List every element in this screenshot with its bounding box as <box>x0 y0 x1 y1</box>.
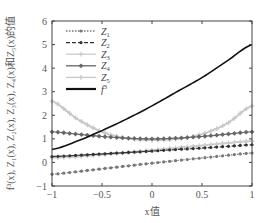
marker-dot <box>162 160 165 163</box>
marker-dot <box>145 162 148 165</box>
marker-dot <box>68 154 71 157</box>
marker-dot <box>68 171 71 174</box>
x-tick-label: 1 <box>250 189 255 200</box>
marker-dot <box>103 152 106 155</box>
marker-dot <box>227 154 230 157</box>
legend-label: Z3 <box>101 49 110 61</box>
marker-dot <box>145 150 148 153</box>
x-axis-label: x值 <box>145 205 160 217</box>
marker-plus <box>79 75 84 80</box>
marker-diamond <box>103 134 108 139</box>
legend-item-z2: Z2 <box>66 37 110 49</box>
marker-dot <box>121 165 124 168</box>
marker-dot <box>209 155 212 158</box>
marker-plus <box>244 139 249 144</box>
marker-dot <box>197 147 200 150</box>
marker-dot <box>92 153 95 156</box>
marker-dot <box>233 144 236 147</box>
line-chart: −1−0.500.51−10123456 Z1Z2Z3Z4Z5f3 x值 f³(… <box>0 0 269 223</box>
marker-dot <box>92 168 95 171</box>
x-tick-label: −0.5 <box>93 189 111 200</box>
marker-dot <box>215 155 218 158</box>
marker-dot <box>197 157 200 160</box>
legend-label: f3 <box>101 83 107 95</box>
marker-diamond <box>179 136 184 141</box>
marker-dot <box>180 158 183 161</box>
marker-dot <box>121 151 124 154</box>
marker-dot <box>133 164 136 167</box>
y-tick-label: 6 <box>42 16 47 27</box>
marker-dot <box>162 149 165 152</box>
marker-dot <box>186 147 189 150</box>
marker-dot <box>180 148 183 151</box>
marker-dot <box>62 172 65 175</box>
marker-dot <box>133 151 136 154</box>
marker-dot <box>97 168 100 171</box>
marker-diamond <box>79 132 84 137</box>
marker-dot <box>209 146 212 149</box>
marker-dot <box>56 172 59 175</box>
marker-dot <box>56 155 59 158</box>
marker-diamond <box>67 131 72 136</box>
marker-dot <box>139 150 142 153</box>
y-tick-label: 0 <box>42 157 47 168</box>
marker-diamond <box>226 132 231 137</box>
marker-dot <box>192 147 195 150</box>
legend: Z1Z2Z3Z4Z5f3 <box>66 26 111 95</box>
y-tick-label: 3 <box>42 86 47 97</box>
marker-diamond <box>238 130 243 135</box>
y-axis-label: f³(x), Z₁(x), Z₂(x), Z₃(x), Z₄(x)和Z₅(x)的… <box>4 16 17 190</box>
marker-dot <box>86 153 89 156</box>
marker-diamond <box>214 133 219 138</box>
marker-dot <box>221 145 224 148</box>
marker-dot <box>79 41 82 44</box>
y-tick-label: 2 <box>42 110 47 121</box>
marker-dot <box>150 150 153 153</box>
marker-diamond <box>126 136 131 141</box>
marker-dot <box>127 164 130 167</box>
marker-dot <box>156 161 159 164</box>
marker-dot <box>192 157 195 160</box>
marker-dot <box>168 160 171 163</box>
marker-dot <box>174 159 177 162</box>
marker-dot <box>79 29 82 32</box>
legend-item-z4: Z4 <box>66 60 111 72</box>
plot-frame <box>52 21 252 186</box>
marker-dot <box>97 153 100 156</box>
marker-dot <box>86 169 89 172</box>
y-tick-label: 5 <box>42 39 47 50</box>
marker-dot <box>156 149 159 152</box>
x-tick-label: 0.5 <box>196 189 209 200</box>
legend-item-f3: f3 <box>66 83 107 95</box>
legend-label: Z4 <box>101 60 111 72</box>
marker-diamond <box>73 132 78 137</box>
marker-diamond <box>220 132 225 137</box>
marker-dot <box>62 154 65 157</box>
marker-dot <box>150 162 153 165</box>
marker-diamond <box>244 130 249 135</box>
marker-dot <box>239 144 242 147</box>
marker-diamond <box>97 134 102 139</box>
marker-dot <box>239 152 242 155</box>
marker-diamond <box>55 130 60 135</box>
marker-diamond <box>185 135 190 140</box>
marker-dot <box>203 156 206 159</box>
legend-item-z3: Z3 <box>66 49 110 61</box>
marker-plus <box>238 140 243 145</box>
marker-dot <box>245 152 248 155</box>
marker-diamond <box>61 130 66 135</box>
marker-diamond <box>232 131 237 136</box>
marker-plus <box>232 140 237 145</box>
marker-dot <box>115 166 118 169</box>
marker-dot <box>245 143 248 146</box>
marker-dot <box>221 154 224 157</box>
marker-plus <box>79 52 84 57</box>
marker-diamond <box>208 133 213 138</box>
marker-dot <box>115 152 118 155</box>
marker-dot <box>80 170 83 173</box>
marker-dot <box>233 153 236 156</box>
marker-dot <box>186 158 189 161</box>
marker-dot <box>215 145 218 148</box>
y-tick-label: −1 <box>36 181 47 192</box>
marker-dot <box>203 146 206 149</box>
